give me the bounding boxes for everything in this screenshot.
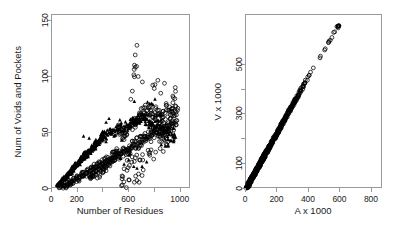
x-tick: [339, 188, 340, 192]
x-axis-title-right: A x 1000: [295, 206, 332, 216]
x-tick: [154, 188, 155, 192]
x-tick-label: 0: [243, 195, 248, 204]
x-tick-label: 400: [301, 195, 315, 204]
y-tick-label: 300: [235, 99, 244, 129]
y-tick: [241, 138, 245, 139]
figure-root: 02006001000 050100150 Number of Residues…: [0, 0, 400, 232]
chart-panel-right: 0200400600800 0100300500 A x 1000 V x 10…: [200, 0, 400, 232]
y-tick-label: 500: [235, 49, 244, 79]
y-tick-label: 100: [41, 61, 50, 91]
chart-panel-left: 02006001000 050100150 Number of Residues…: [0, 0, 200, 232]
y-tick-label: 100: [235, 148, 244, 178]
x-tick-label: 0: [49, 195, 54, 204]
y-axis-title-right: V x 1000: [213, 42, 223, 162]
y-axis-title-left: Num of Voids and Pockets: [13, 42, 23, 162]
x-tick-label: 800: [364, 195, 378, 204]
y-tick-label: 150: [41, 5, 50, 35]
x-tick: [276, 188, 277, 192]
x-tick-label: 600: [332, 195, 346, 204]
x-tick: [180, 188, 181, 192]
x-tick: [77, 188, 78, 192]
y-tick-label: 50: [41, 117, 50, 147]
x-tick-label: 200: [70, 195, 84, 204]
x-tick-label: 600: [121, 195, 135, 204]
x-tick: [102, 188, 103, 192]
x-tick-label: 200: [269, 195, 283, 204]
x-tick: [371, 188, 372, 192]
x-axis-title-left: Number of Residues: [77, 206, 164, 216]
plot-frame-right: [245, 14, 382, 188]
y-tick: [241, 89, 245, 90]
y-tick-label: 0: [41, 173, 50, 203]
x-tick-label: 1000: [170, 195, 189, 204]
x-tick: [51, 188, 52, 192]
x-tick: [128, 188, 129, 192]
scatter-points-left: [52, 15, 191, 189]
plot-frame-left: [51, 14, 190, 188]
x-tick: [308, 188, 309, 192]
x-tick: [245, 188, 246, 192]
scatter-points-right: [246, 15, 383, 189]
